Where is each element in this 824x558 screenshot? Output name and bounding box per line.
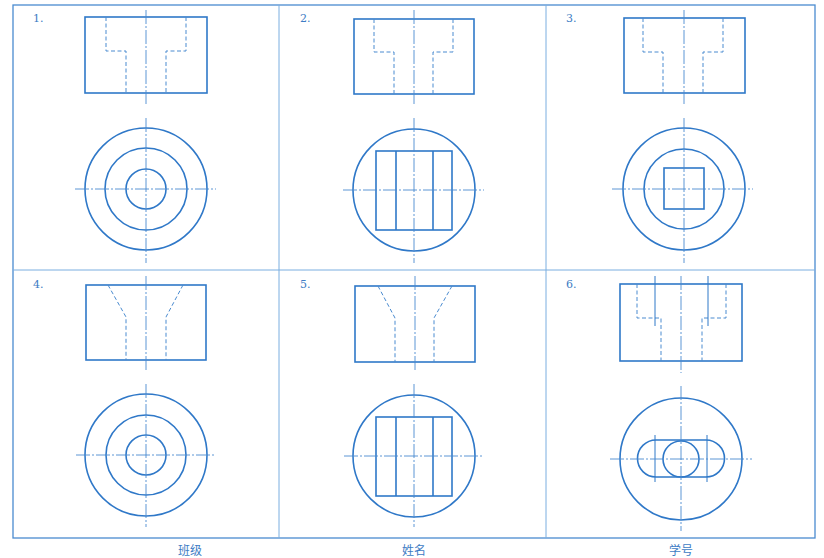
problem-4: 4. bbox=[33, 276, 216, 527]
front-view bbox=[354, 10, 474, 106]
student-id-label: 学号 bbox=[669, 541, 693, 558]
top-view bbox=[75, 118, 216, 263]
problem-1: 1. bbox=[33, 10, 216, 263]
name-label: 姓名 bbox=[402, 541, 426, 558]
front-view bbox=[85, 10, 207, 106]
top-view bbox=[344, 384, 484, 527]
top-view bbox=[612, 118, 753, 263]
problem-number: 4. bbox=[33, 278, 44, 291]
problem-5: 5. bbox=[300, 276, 484, 527]
front-view bbox=[355, 276, 475, 372]
problem-3: 3. bbox=[566, 10, 753, 263]
front-view bbox=[624, 10, 745, 106]
problem-6: 6. bbox=[566, 276, 752, 531]
outer-frame bbox=[13, 5, 815, 538]
problem-2: 2. bbox=[300, 10, 484, 263]
class-label: 班级 bbox=[178, 541, 202, 558]
front-view bbox=[86, 276, 206, 372]
problem-number: 6. bbox=[566, 278, 577, 291]
top-view bbox=[343, 118, 484, 263]
top-view bbox=[76, 384, 216, 527]
top-view bbox=[610, 386, 752, 531]
problem-number: 3. bbox=[566, 12, 577, 25]
front-view bbox=[620, 276, 742, 373]
problem-number: 5. bbox=[300, 278, 311, 291]
problem-number: 2. bbox=[300, 12, 311, 25]
problem-number: 1. bbox=[33, 12, 44, 25]
drawing-sheet: .frame { stroke: #4a8bd0; stroke-width: … bbox=[0, 0, 824, 558]
